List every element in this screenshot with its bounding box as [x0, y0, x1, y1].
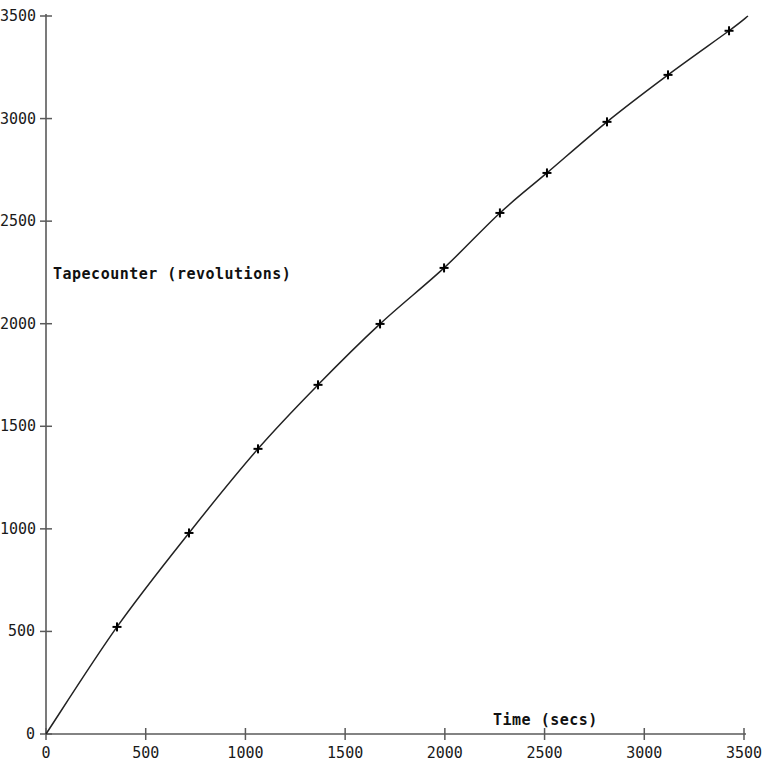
x-axis-tick-label: 1500 — [305, 744, 385, 762]
y-axis-tick-label: 1000 — [0, 520, 35, 538]
data-point-markers — [112, 26, 733, 631]
series-line — [46, 16, 748, 734]
y-axis-title: Tapecounter (revolutions) — [53, 265, 291, 283]
y-axis-tick-label: 0 — [0, 725, 35, 743]
data-series — [46, 16, 748, 734]
axes-group — [46, 14, 746, 734]
x-axis-tick-label: 3500 — [704, 744, 768, 762]
x-axis-tick-label: 3000 — [604, 744, 684, 762]
x-axis-tick-label: 500 — [106, 744, 186, 762]
x-axis-tick-label: 2500 — [505, 744, 585, 762]
x-axis-tick-label: 1000 — [205, 744, 285, 762]
chart-figure: 0500100015002000250030003500 05001000150… — [0, 0, 768, 772]
y-axis-tick-label: 2500 — [0, 212, 35, 230]
y-axis-tick-label: 2000 — [0, 315, 35, 333]
y-axis-tick-label: 1500 — [0, 417, 35, 435]
plot-area — [0, 0, 768, 772]
y-axis-tick-label: 500 — [0, 622, 35, 640]
x-axis-tick-label: 0 — [6, 744, 86, 762]
x-axis-title: Time (secs) — [493, 711, 598, 729]
x-axis-tick-label: 2000 — [405, 744, 485, 762]
tick-marks — [40, 16, 744, 740]
y-axis-tick-label: 3500 — [0, 7, 35, 25]
y-axis-tick-label: 3000 — [0, 110, 35, 128]
